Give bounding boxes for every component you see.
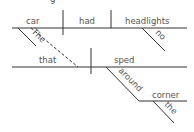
- word-no: no: [154, 27, 169, 42]
- word-car: car: [26, 16, 40, 26]
- cropped-text: g: [50, 0, 55, 4]
- word-around: around: [117, 65, 145, 93]
- sentence-diagram: g car had headlights The no that sped ar…: [0, 0, 194, 132]
- word-sped: sped: [114, 55, 134, 65]
- word-had: had: [79, 16, 95, 26]
- word-headlights: headlights: [125, 16, 170, 26]
- word-corner: corner: [152, 90, 180, 100]
- word-that: that: [39, 55, 57, 65]
